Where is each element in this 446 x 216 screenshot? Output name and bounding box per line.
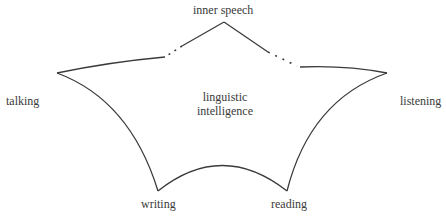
label-listening: listening <box>400 94 441 108</box>
edge-talking-writing <box>57 73 158 191</box>
label-talking: talking <box>6 94 39 108</box>
edge-inner-speech-talking-lower <box>57 57 165 73</box>
label-reading: reading <box>271 197 307 211</box>
edge-writing-reading <box>158 166 287 192</box>
edge-listening-reading <box>287 73 387 191</box>
edge-inner-speech-talking <box>182 22 224 46</box>
edge-inner-speech-listening-lower <box>300 67 387 73</box>
edge-inner-speech-talking-dotted <box>165 46 182 57</box>
center-label-line1: linguistic <box>180 90 270 104</box>
label-writing: writing <box>141 197 176 211</box>
edge-inner-speech-listening-dotted <box>268 52 297 66</box>
center-label: linguistic intelligence <box>180 90 270 118</box>
label-inner-speech: inner speech <box>193 3 253 17</box>
center-label-line2: intelligence <box>180 104 270 118</box>
edge-inner-speech-listening <box>224 22 268 52</box>
